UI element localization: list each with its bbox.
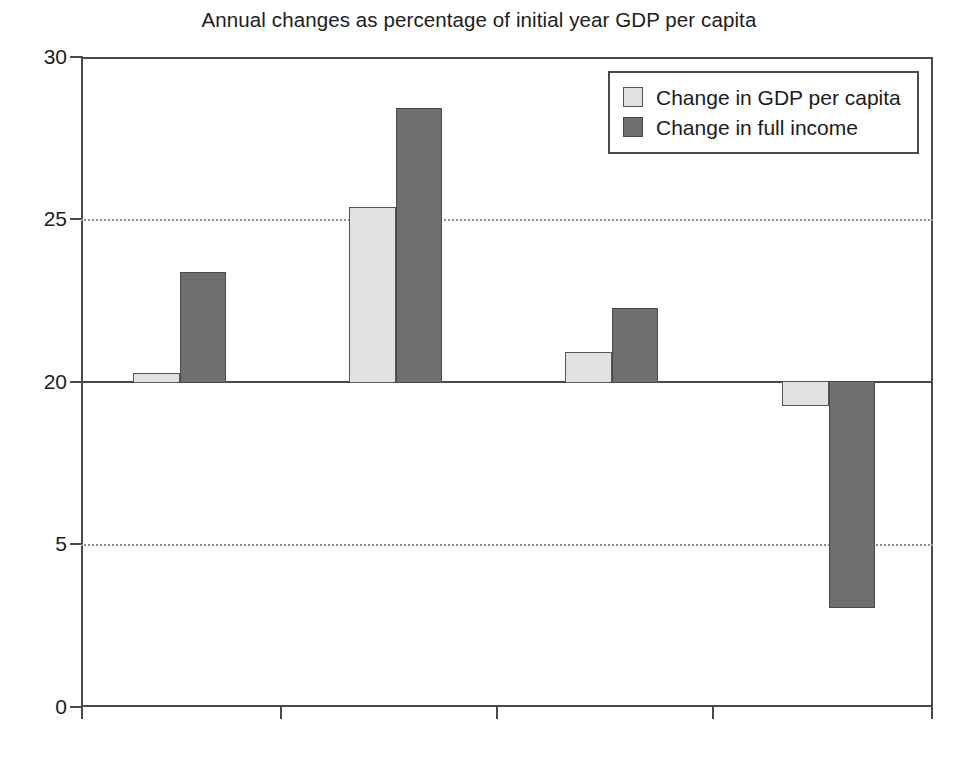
gridline-5 — [81, 544, 933, 546]
plot-area: 1960–67 1970–80 1980–90 1990–2000 — [81, 57, 933, 707]
y-tick-label-30: 30 — [44, 45, 67, 69]
y-axis: 30 25 20 5 0 — [0, 0, 81, 764]
axis-line-bottom — [81, 705, 933, 707]
bar-1990-2000-gdp — [782, 381, 829, 406]
legend-swatch-light-gray-square — [623, 87, 643, 107]
y-tick-label-5: 5 — [55, 532, 67, 556]
bar-1970-80-full — [396, 108, 442, 383]
axis-line-top — [81, 57, 933, 59]
gridline-25 — [81, 219, 933, 221]
chart-legend: Change in GDP per capita Change in full … — [608, 71, 919, 154]
chart-title: Annual changes as percentage of initial … — [0, 8, 958, 32]
legend-label-gdp-per-capita: Change in GDP per capita — [656, 87, 901, 108]
y-tick-label-0: 0 — [55, 695, 67, 719]
legend-item-gdp-per-capita: Change in GDP per capita — [623, 82, 901, 112]
x-tick-mark-0 — [81, 705, 83, 719]
bar-1980-90-gdp — [565, 352, 612, 383]
y-tick-label-25: 25 — [44, 207, 67, 231]
x-tick-mark-4 — [931, 705, 933, 719]
bar-1960-67-gdp — [133, 373, 180, 383]
x-tick-mark-3 — [712, 705, 714, 719]
bar-1990-2000-full — [829, 381, 875, 608]
x-tick-mark-1 — [280, 705, 282, 719]
y-tick-label-20: 20 — [44, 370, 67, 394]
bar-1960-67-full — [180, 272, 226, 383]
chart-figure: Annual changes as percentage of initial … — [0, 0, 958, 764]
bar-1980-90-full — [612, 308, 658, 383]
legend-label-full-income: Change in full income — [656, 117, 858, 138]
legend-item-full-income: Change in full income — [623, 112, 901, 142]
bar-1970-80-gdp — [349, 207, 396, 383]
x-tick-mark-2 — [496, 705, 498, 719]
legend-swatch-dark-gray-square — [623, 117, 643, 137]
